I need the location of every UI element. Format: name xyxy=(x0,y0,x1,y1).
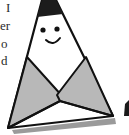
right-eye-icon xyxy=(54,26,59,31)
adjacent-figure-fragment xyxy=(124,100,129,116)
triangle-character-illustration xyxy=(0,0,129,135)
left-eye-icon xyxy=(40,27,45,32)
